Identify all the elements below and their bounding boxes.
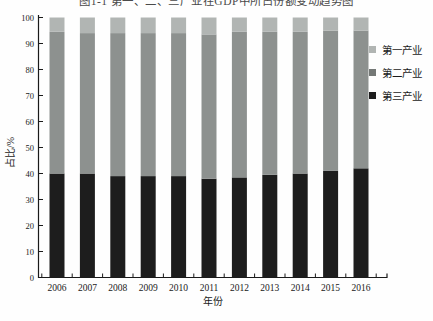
x-axis-label: 年份 [38, 293, 387, 308]
bar-segment-第一产业 [141, 18, 156, 34]
y-tick-label: 20 [26, 221, 35, 231]
bar-segment-第一产业 [202, 18, 217, 35]
bar-segment-第三产业 [80, 174, 95, 278]
bar-segment-第一产业 [262, 18, 277, 32]
bar-segment-第一产业 [232, 18, 247, 32]
bar-segment-第二产业 [323, 31, 338, 171]
bar-segment-第三产业 [171, 176, 186, 277]
x-tick-label: 2012 [230, 283, 249, 293]
bar-segment-第一产业 [293, 18, 308, 32]
bar-segment-第三产业 [110, 176, 125, 277]
y-tick-label: 40 [26, 169, 35, 179]
legend-color-swatch [369, 92, 376, 99]
y-tick-label: 70 [26, 91, 35, 101]
legend-label: 第二产业 [382, 65, 422, 80]
legend-color-swatch [369, 46, 376, 53]
y-tick-label: 90 [26, 39, 35, 49]
bar-segment-第三产业 [293, 174, 308, 278]
bar-segment-第三产业 [262, 175, 277, 278]
x-tick-label: 2007 [78, 283, 97, 293]
bar-segment-第三产业 [323, 171, 338, 278]
bar-segment-第二产业 [202, 34, 217, 178]
bar-segment-第一产业 [171, 18, 186, 34]
bar-segment-第三产业 [202, 179, 217, 278]
bar-segment-第一产业 [354, 18, 369, 31]
bar-segment-第一产业 [50, 18, 65, 32]
x-tick-label: 2010 [169, 283, 188, 293]
bar-segment-第二产业 [293, 32, 308, 174]
legend: 第一产业第二产业第三产业 [369, 38, 422, 107]
bar-segment-第二产业 [354, 31, 369, 169]
x-tick-label: 2009 [139, 283, 158, 293]
y-tick-label: 10 [26, 247, 35, 257]
x-tick-label: 2013 [260, 283, 279, 293]
y-tick-label: 60 [26, 117, 35, 127]
x-tick-label: 2011 [200, 283, 219, 293]
legend-item: 第一产业 [369, 38, 422, 61]
bar-segment-第二产业 [171, 33, 186, 176]
legend-label: 第一产业 [382, 42, 422, 57]
bar-segment-第二产业 [50, 32, 65, 174]
figure-scan: 图1-1 第一、二、三产业在GDP中所占份额变动趋势图 010203040506… [0, 0, 433, 321]
bar-segment-第一产业 [80, 18, 95, 34]
x-tick-label: 2014 [291, 283, 310, 293]
y-tick-label: 80 [26, 65, 35, 75]
y-tick-label: 30 [26, 195, 35, 205]
y-tick-label: 50 [26, 143, 35, 153]
y-axis-label: 占比/% [2, 124, 17, 182]
y-tick-label: 100 [21, 13, 34, 23]
bar-segment-第三产业 [232, 177, 247, 277]
legend-label: 第三产业 [382, 88, 422, 103]
bar-segment-第二产业 [262, 32, 277, 175]
y-tick-label: 0 [30, 273, 34, 283]
bar-segment-第三产业 [50, 174, 65, 278]
bar-segment-第二产业 [80, 33, 95, 173]
x-tick-label: 2016 [352, 283, 371, 293]
x-tick-label: 2006 [48, 283, 67, 293]
legend-item: 第三产业 [369, 84, 422, 107]
bar-segment-第三产业 [141, 176, 156, 277]
bar-segment-第二产业 [110, 33, 125, 176]
bar-segment-第二产业 [232, 32, 247, 178]
bar-segment-第三产业 [354, 168, 369, 277]
bar-segment-第一产业 [323, 18, 338, 31]
x-tick-label: 2015 [321, 283, 340, 293]
bar-segment-第一产业 [110, 18, 125, 34]
bar-segment-第二产业 [141, 33, 156, 176]
legend-item: 第二产业 [369, 61, 422, 84]
x-tick-label: 2008 [108, 283, 127, 293]
legend-color-swatch [369, 69, 376, 76]
